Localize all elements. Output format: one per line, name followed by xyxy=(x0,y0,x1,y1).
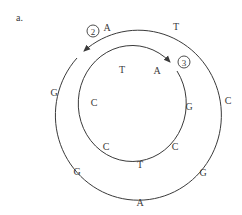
outer-base-label: C xyxy=(225,95,232,106)
outer-base-label: T xyxy=(173,21,179,32)
strand-diagram-canvas: 2 3 A T C G A G G T A G C T C C xyxy=(0,0,242,215)
inner-base-label: C xyxy=(103,141,110,152)
inner-base-label: G xyxy=(185,101,192,112)
inner-base-label: T xyxy=(119,64,125,75)
inner-base-label: C xyxy=(172,141,179,152)
inner-base-label: T xyxy=(137,159,143,170)
inner-base-label: A xyxy=(153,65,161,76)
outer-base-label: G xyxy=(199,167,206,178)
inner-marker-number: 3 xyxy=(182,58,187,68)
outer-base-label: A xyxy=(136,197,144,208)
outer-strand-marker: 2 xyxy=(87,25,99,37)
dna-circular-diagram: a. 2 3 A T C G A G G xyxy=(0,0,242,215)
outer-marker-number: 2 xyxy=(91,27,96,37)
panel-label: a. xyxy=(16,12,23,23)
outer-base-label: G xyxy=(73,166,80,177)
inner-base-label: C xyxy=(91,97,98,108)
outer-base-label: A xyxy=(103,22,111,33)
inner-strand-marker: 3 xyxy=(178,56,190,68)
outer-base-label: G xyxy=(50,87,57,98)
outer-strand-bases: A T C G A G G xyxy=(50,21,231,208)
